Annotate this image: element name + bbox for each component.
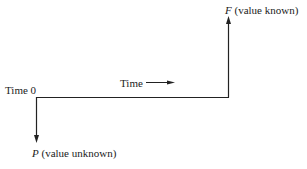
down-arrow-icon bbox=[34, 135, 39, 143]
up-arrow-icon bbox=[226, 16, 231, 24]
timeline-graphic bbox=[0, 0, 307, 169]
future-value-label: F (value known) bbox=[225, 4, 298, 16]
future-value-note: (value known) bbox=[234, 4, 298, 16]
time-axis-label: Time bbox=[120, 77, 143, 89]
cash-flow-time-diagram: Time 0 Time F (value known) P (value unk… bbox=[0, 0, 307, 169]
future-value-symbol: F bbox=[225, 4, 232, 16]
time-zero-label: Time 0 bbox=[5, 84, 36, 96]
present-value-symbol: P bbox=[32, 147, 39, 159]
present-value-note: (value unknown) bbox=[41, 147, 116, 159]
present-value-label: P (value unknown) bbox=[32, 147, 116, 159]
right-arrow-icon bbox=[167, 81, 175, 85]
